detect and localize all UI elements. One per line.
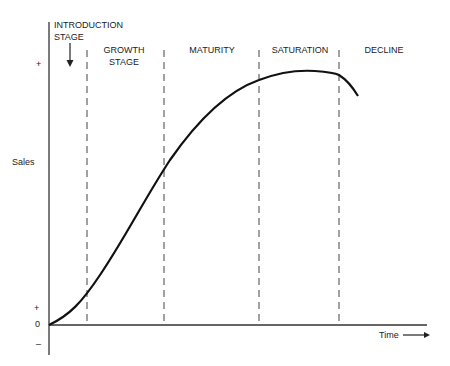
intro-arrow-head-icon (67, 60, 74, 67)
decline-stage-label: DECLINE (344, 45, 424, 56)
y-tick-plus-low: + (34, 303, 39, 314)
intro-stage-label-line2: STAGE (54, 32, 84, 43)
time-arrow-head-icon (424, 332, 430, 338)
y-tick-minus: – (36, 339, 41, 350)
growth-stage-label-line1: GROWTH (96, 45, 152, 56)
y-axis-label-sales: Sales (12, 157, 35, 168)
maturity-stage-label: MATURITY (170, 45, 254, 56)
product-life-cycle-diagram: INTRODUCTION STAGE GROWTH STAGE MATURITY… (0, 0, 450, 366)
sales-curve (49, 71, 358, 325)
x-axis-label-time: Time (379, 330, 399, 341)
saturation-stage-label: SATURATION (262, 45, 338, 56)
growth-stage-label-line2: STAGE (96, 57, 152, 68)
y-tick-plus-top: + (36, 59, 41, 70)
y-tick-zero: 0 (35, 319, 40, 330)
intro-stage-label-line1: INTRODUCTION (54, 20, 123, 31)
stage-dividers (87, 50, 339, 325)
